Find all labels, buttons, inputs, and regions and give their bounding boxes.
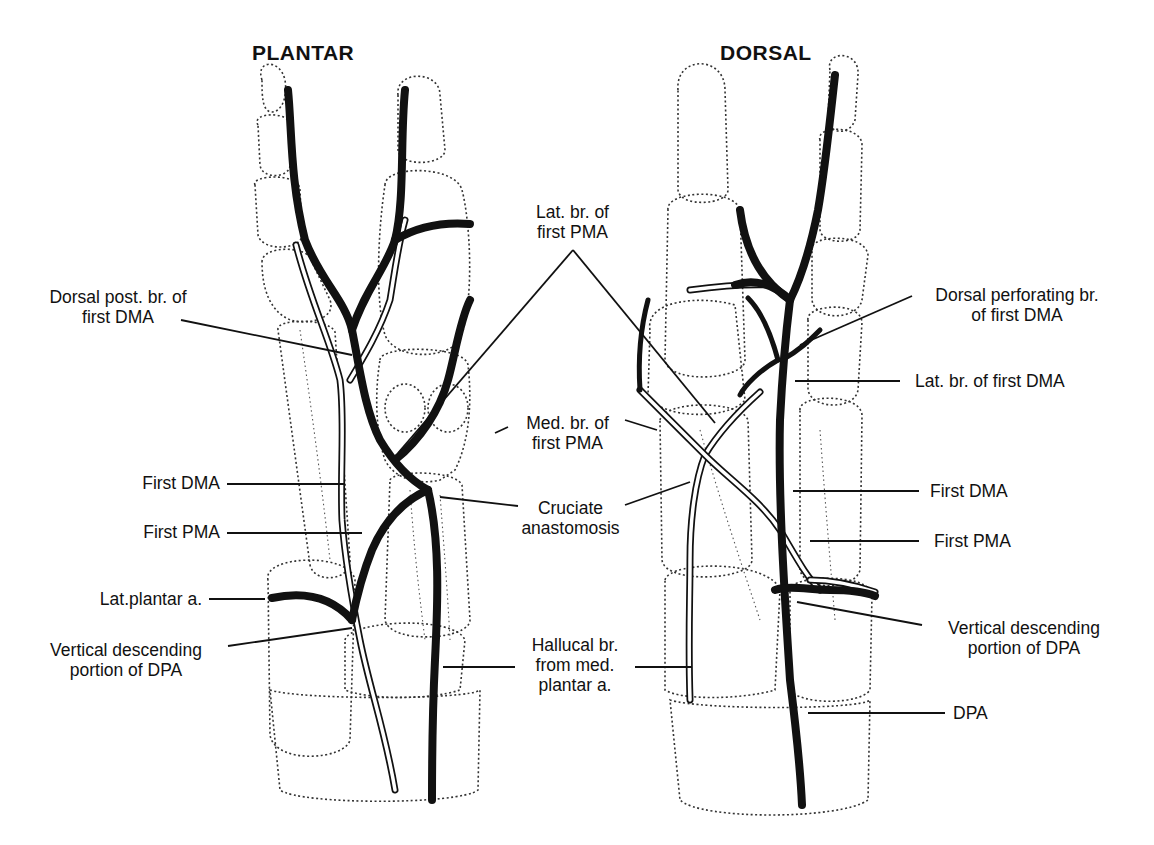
label-line: Med. br. of xyxy=(510,413,625,433)
label-dorsal-post-br-first-dma: Dorsal post. br. of first DMA xyxy=(28,287,208,327)
label-line: portion of DPA xyxy=(28,660,224,680)
label-plantar-first-pma: First PMA xyxy=(60,522,220,542)
label-line: Hallucal br. xyxy=(515,635,635,655)
label-dorsal-perforating-br-first-dma: Dorsal perforating br. of first DMA xyxy=(912,285,1122,325)
label-dorsal-dpa: DPA xyxy=(953,703,988,723)
label-plantar-vertical-descending-dpa: Vertical descending portion of DPA xyxy=(28,640,224,680)
label-line: anastomosis xyxy=(508,518,633,538)
label-lat-br-first-pma: Lat. br. of first PMA xyxy=(510,202,635,242)
plantar-foot-drawing xyxy=(255,64,480,801)
label-line: first PMA xyxy=(510,222,635,242)
label-line: Dorsal perforating br. xyxy=(912,285,1122,305)
label-line: first DMA xyxy=(28,307,208,327)
label-line: from med. xyxy=(515,655,635,675)
panel-title-plantar: PLANTAR xyxy=(252,41,354,65)
label-dorsal-first-pma: First PMA xyxy=(934,531,1011,551)
label-dorsal-vertical-descending-dpa: Vertical descending portion of DPA xyxy=(926,618,1122,658)
panel-title-dorsal: DORSAL xyxy=(720,41,812,65)
label-line: Lat. br. of xyxy=(510,202,635,222)
label-lat-plantar-a: Lat.plantar a. xyxy=(40,589,202,609)
label-cruciate-anastomosis: Cruciate anastomosis xyxy=(508,498,633,538)
dorsal-foot-drawing xyxy=(639,56,875,815)
label-line: Dorsal post. br. of xyxy=(28,287,208,307)
label-line: portion of DPA xyxy=(926,638,1122,658)
label-line: of first DMA xyxy=(912,305,1122,325)
label-med-br-first-pma: Med. br. of first PMA xyxy=(510,413,625,453)
label-line: Vertical descending xyxy=(926,618,1122,638)
label-line: Vertical descending xyxy=(28,640,224,660)
label-line: Cruciate xyxy=(508,498,633,518)
label-line: plantar a. xyxy=(515,675,635,695)
label-line: first PMA xyxy=(510,433,625,453)
label-plantar-first-dma: First DMA xyxy=(60,473,220,493)
label-lat-br-first-dma: Lat. br. of first DMA xyxy=(915,371,1065,391)
label-hallucal-br: Hallucal br. from med. plantar a. xyxy=(515,635,635,695)
label-dorsal-first-dma: First DMA xyxy=(930,481,1008,501)
